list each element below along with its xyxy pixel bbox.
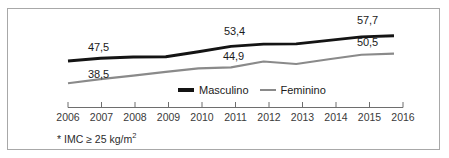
legend-line-swatch-icon-feminino <box>260 89 276 92</box>
x-tick-label-2012: 2012 <box>252 111 286 123</box>
footnote-exponent: 2 <box>132 131 136 140</box>
legend-item-masculino: Masculino <box>178 84 249 96</box>
legend-line-swatch-icon-masculino <box>178 88 194 91</box>
value-label-feminino-2016: 50,5 <box>357 36 378 48</box>
x-axis <box>68 102 403 108</box>
legend-item-feminino: Feminino <box>260 84 326 96</box>
value-label-feminino-2006: 38,5 <box>88 68 109 80</box>
x-tick-label-2016: 2016 <box>386 111 420 123</box>
value-label-masculino-2006: 47,5 <box>88 41 109 53</box>
x-tick-label-2010: 2010 <box>185 111 219 123</box>
chart-footnote: * IMC ≥ 25 kg/m2 <box>57 131 136 145</box>
x-tick-label-2006: 2006 <box>51 111 85 123</box>
legend-label-masculino: Masculino <box>199 84 249 96</box>
footnote-text: * IMC ≥ 25 kg/m <box>57 133 132 145</box>
value-label-masculino-2011: 53,4 <box>224 25 245 37</box>
x-tick-label-2008: 2008 <box>118 111 152 123</box>
x-tick-label-2007: 2007 <box>85 111 119 123</box>
chart-figure: 47,5 53,4 57,7 38,5 44,9 50,5 Masculino … <box>0 0 449 158</box>
x-tick-label-2014: 2014 <box>319 111 353 123</box>
x-tick-label-2015: 2015 <box>353 111 387 123</box>
chart-legend: Masculino Feminino <box>178 84 326 96</box>
value-label-masculino-2016: 57,7 <box>357 14 378 26</box>
value-label-feminino-2011: 44,9 <box>223 50 244 62</box>
x-tick-label-2009: 2009 <box>152 111 186 123</box>
legend-label-feminino: Feminino <box>281 84 326 96</box>
x-tick-label-2011: 2011 <box>219 111 253 123</box>
x-tick-label-2013: 2013 <box>286 111 320 123</box>
